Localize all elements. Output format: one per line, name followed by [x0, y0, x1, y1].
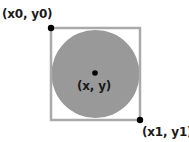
- top-left-point-icon: [48, 25, 54, 31]
- diagram-canvas: [0, 0, 189, 142]
- top-left-label: (x0, y0): [2, 7, 52, 21]
- bottom-right-point-icon: [137, 117, 143, 123]
- center-point-icon: [92, 70, 98, 76]
- bottom-right-label: (x1, y1): [142, 125, 189, 139]
- bounding-box-diagram: (x0, y0) (x, y) (x1, y1): [0, 0, 189, 142]
- center-label: (x, y): [77, 79, 111, 93]
